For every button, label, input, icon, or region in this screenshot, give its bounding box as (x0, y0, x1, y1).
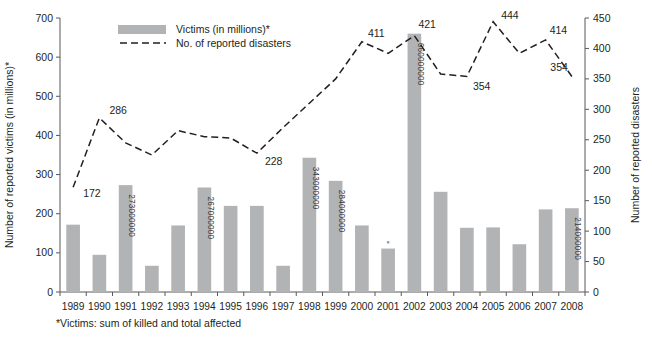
line-point-label-1989: 172 (83, 187, 101, 199)
bar-1989[interactable] (66, 225, 80, 292)
x-axis-year-label-1998: 1998 (298, 301, 321, 312)
x-axis-year-label-1989: 1989 (62, 301, 85, 312)
x-axis-year-label-2007: 2007 (534, 301, 557, 312)
right-axis-tick-label: 0 (593, 286, 599, 298)
left-axis-tick-label: 600 (35, 51, 53, 63)
line-point-label-2000: 411 (368, 27, 385, 39)
left-axis-tick-label: 0 (47, 286, 53, 298)
x-axis-year-label-1993: 1993 (167, 301, 190, 312)
legend-label-disasters: No. of reported disasters (176, 37, 291, 49)
right-axis-tick-label: 50 (593, 255, 605, 267)
bar-2003[interactable] (434, 192, 448, 292)
legend-swatch-victims (118, 25, 166, 34)
left-axis-tick-label: 500 (35, 90, 53, 102)
left-axis-tick-label: 400 (35, 129, 53, 141)
right-axis-tick-label: 150 (593, 194, 611, 206)
line-point-label-1996: 228 (265, 155, 283, 167)
x-axis-year-label-2004: 2004 (456, 301, 479, 312)
right-axis-tick-label: 100 (593, 225, 611, 237)
x-axis-year-label-1990: 1990 (88, 301, 111, 312)
bar-1995[interactable] (224, 206, 238, 292)
bar-1990[interactable] (93, 255, 107, 292)
right-axis-tick-label: 200 (593, 164, 611, 176)
bar-value-label-1994: 267000000 (206, 196, 215, 239)
bar-2005[interactable] (486, 227, 500, 292)
bar-2007[interactable] (539, 209, 553, 292)
x-axis-year-label-1995: 1995 (219, 301, 242, 312)
right-axis-tick-label: 450 (593, 12, 611, 24)
line-point-label-2007: 414 (550, 24, 568, 36)
x-axis-year-label-1991: 1991 (114, 301, 137, 312)
x-axis-year-label-1997: 1997 (272, 301, 295, 312)
line-point-label-2005: 444 (501, 9, 519, 21)
right-axis-tick-label: 350 (593, 72, 611, 84)
bar-value-label-1998: 343000000 (311, 167, 320, 210)
bar-1992[interactable] (145, 266, 159, 292)
bar-value-label-2008: 214000000 (573, 217, 582, 260)
x-axis-year-label-2000: 2000 (351, 301, 374, 312)
disaster-victims-chart: 0100200300400500600700050100150200250300… (0, 0, 652, 338)
x-axis-year-label-2002: 2002 (403, 301, 426, 312)
bar-value-label-1999: 284000000 (337, 190, 346, 233)
left-axis-title: Number of reported victims (in millions)… (3, 62, 15, 248)
x-axis-year-label-1994: 1994 (193, 301, 216, 312)
bar-value-label-1991: 273000000 (127, 194, 136, 237)
footnote-text: *Victims: sum of killed and total affect… (56, 317, 241, 329)
chart-container: 0100200300400500600700050100150200250300… (0, 0, 652, 338)
right-axis-tick-label: 250 (593, 133, 611, 145)
right-axis-tick-label: 400 (593, 42, 611, 54)
bar-2004[interactable] (460, 228, 474, 292)
left-axis-tick-label: 200 (35, 207, 53, 219)
x-axis-year-label-2001: 2001 (377, 301, 400, 312)
line-point-label-2008: 354 (550, 61, 568, 73)
left-axis-tick-label: 300 (35, 168, 53, 180)
bar-1997[interactable] (276, 266, 290, 292)
line-point-label-2004: 354 (473, 80, 491, 92)
x-axis-year-label-1992: 1992 (141, 301, 164, 312)
x-axis-year-label-2008: 2008 (561, 301, 584, 312)
bar-1996[interactable] (250, 206, 264, 292)
bar-2001[interactable] (381, 249, 395, 292)
bar-1993[interactable] (171, 225, 185, 292)
right-axis-title: Number of reported disasters (629, 87, 641, 223)
left-axis-tick-label: 100 (35, 246, 53, 258)
right-axis-tick-label: 300 (593, 103, 611, 115)
x-axis-year-label-1999: 1999 (324, 301, 347, 312)
bar-2006[interactable] (513, 244, 527, 292)
legend-label-victims: Victims (in millions)* (176, 23, 270, 35)
disasters-line[interactable] (73, 22, 572, 188)
bar-2000[interactable] (355, 225, 369, 292)
x-axis-year-label-2003: 2003 (429, 301, 452, 312)
line-point-label-1990: 286 (109, 104, 127, 116)
left-axis-tick-label: 700 (35, 12, 53, 24)
x-axis-year-label-2006: 2006 (508, 301, 531, 312)
speck-marker (387, 241, 389, 243)
x-axis-year-label-2005: 2005 (482, 301, 505, 312)
line-point-label-2002: 421 (418, 18, 436, 30)
x-axis-year-label-1996: 1996 (246, 301, 269, 312)
